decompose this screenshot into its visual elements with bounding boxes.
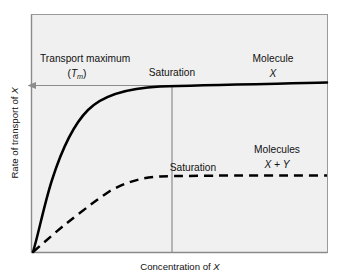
- y-axis-label: Rate of transport of X: [9, 87, 20, 179]
- series-label-molecules-xy-line1: Molecules: [254, 144, 300, 155]
- series-label-molecule-x-line1: Molecule: [253, 53, 294, 64]
- transport-maximum-label: Transport maximum: [40, 53, 130, 64]
- saturation-upper-label: Saturation: [149, 67, 195, 78]
- series-label-molecules-xy-line2: X + Y: [263, 159, 290, 170]
- transport-saturation-figure: Transport maximum (Tm) Saturation Satura…: [0, 0, 340, 279]
- saturation-chart: Transport maximum (Tm) Saturation Satura…: [0, 0, 340, 279]
- series-label-molecule-x-line2: X: [269, 68, 278, 79]
- x-axis-label: Concentration of X: [140, 261, 220, 272]
- plot-background: [32, 15, 328, 253]
- saturation-lower-label: Saturation: [170, 162, 216, 173]
